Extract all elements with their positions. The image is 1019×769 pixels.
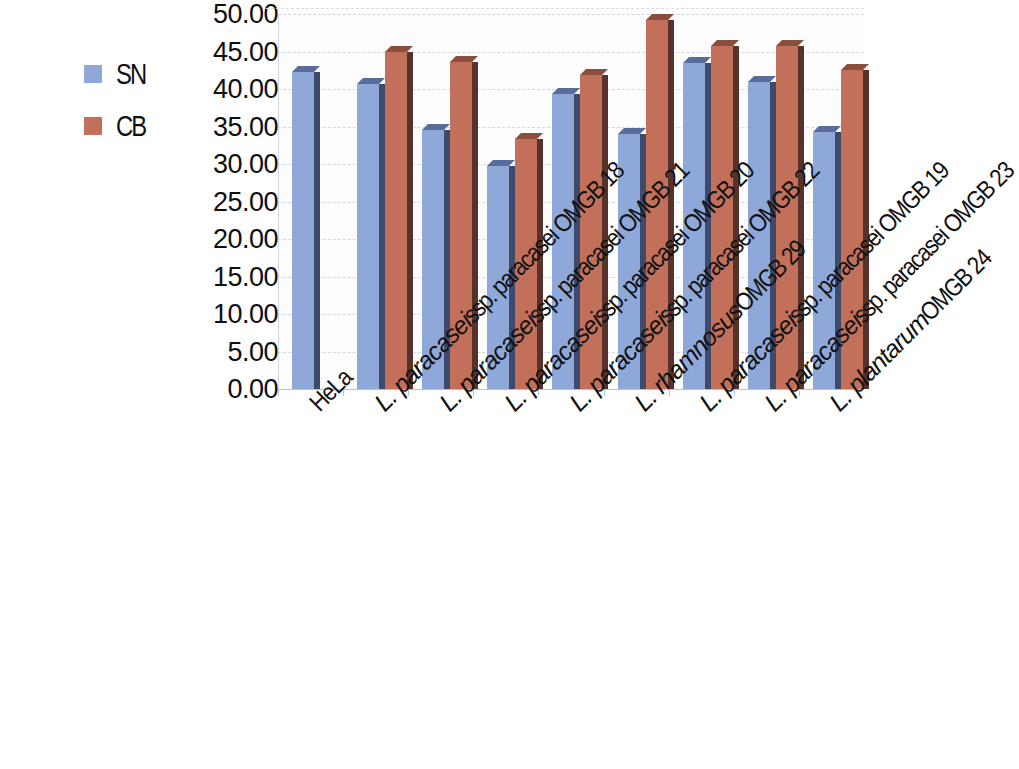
bar-sn	[292, 72, 314, 389]
x-axis-category-labels: HeLaL. paracasei ssp. paracasei OMGB 18L…	[0, 392, 872, 769]
bar-cb	[385, 52, 407, 390]
y-axis-tick-label: 40.00	[213, 76, 278, 103]
y-axis-tick-label: 35.00	[213, 113, 278, 140]
y-axis-tick-label: 45.00	[213, 38, 278, 65]
bar-face	[385, 52, 407, 390]
y-axis-tick-label: 10.00	[213, 301, 278, 328]
bar-face	[292, 72, 314, 389]
bar-side	[314, 72, 320, 389]
legend-label-sn: SN	[116, 60, 145, 89]
bar-group	[278, 14, 343, 389]
y-axis-tick-label: 25.00	[213, 188, 278, 215]
y-axis-tick-label: 15.00	[213, 263, 278, 290]
bar-sn	[357, 84, 379, 389]
y-axis-tick-label: 5.00	[227, 338, 278, 365]
legend-swatch-sn-icon	[84, 65, 102, 83]
bar-face	[357, 84, 379, 389]
y-axis-tick-labels: 50.0045.0040.0035.0030.0025.0020.0015.00…	[168, 0, 278, 400]
legend-swatch-cb-icon	[84, 117, 102, 135]
legend-label-cb: CB	[116, 112, 145, 141]
bar-group	[343, 14, 408, 389]
y-axis-tick-label: 30.00	[213, 151, 278, 178]
y-axis-tick-label: 20.00	[213, 226, 278, 253]
